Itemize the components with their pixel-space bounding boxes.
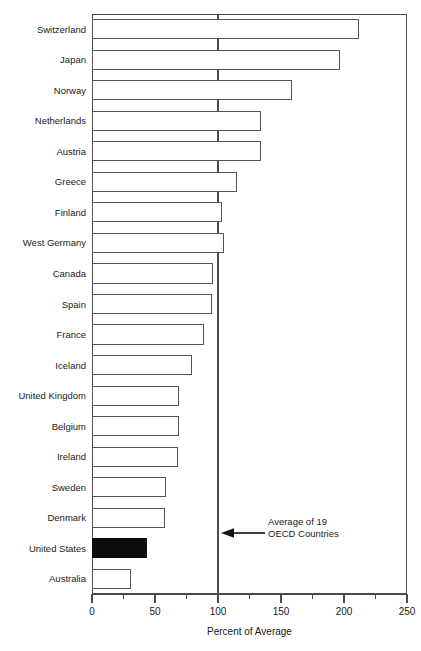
bar bbox=[92, 263, 213, 283]
annotation-arrow-icon bbox=[221, 528, 265, 538]
x-tick-major bbox=[217, 594, 218, 603]
x-tick-major bbox=[406, 594, 407, 603]
bar bbox=[92, 141, 261, 161]
category-label: United States bbox=[0, 543, 86, 554]
category-label: Austria bbox=[0, 146, 86, 157]
bar bbox=[92, 111, 261, 131]
bar bbox=[92, 233, 224, 253]
bar-chart: SwitzerlandJapanNorwayNetherlandsAustria… bbox=[0, 0, 421, 651]
category-label: Ireland bbox=[0, 451, 86, 462]
bar bbox=[92, 202, 222, 222]
bar bbox=[92, 508, 165, 528]
category-label: Japan bbox=[0, 54, 86, 65]
x-tick-minor bbox=[249, 594, 250, 599]
category-label: Spain bbox=[0, 299, 86, 310]
bar bbox=[92, 416, 179, 436]
category-label: Sweden bbox=[0, 482, 86, 493]
bar bbox=[92, 569, 131, 589]
average-annotation: Average of 19 OECD Countries bbox=[268, 516, 339, 539]
x-tick-label: 250 bbox=[399, 606, 416, 618]
bar bbox=[92, 50, 340, 70]
annotation-line-1: Average of 19 bbox=[268, 516, 339, 528]
x-tick-label: 0 bbox=[89, 606, 95, 618]
bar bbox=[92, 19, 359, 39]
category-label: Switzerland bbox=[0, 24, 86, 35]
category-label: Norway bbox=[0, 85, 86, 96]
x-tick-label: 100 bbox=[210, 606, 227, 618]
bar bbox=[92, 538, 147, 558]
bar bbox=[92, 294, 212, 314]
bar bbox=[92, 324, 204, 344]
bar bbox=[92, 386, 179, 406]
x-tick-major bbox=[154, 594, 155, 603]
x-tick-minor bbox=[312, 594, 313, 599]
category-label: United Kingdom bbox=[0, 390, 86, 401]
x-tick-major bbox=[343, 594, 344, 603]
x-axis-title: Percent of Average bbox=[92, 626, 407, 638]
category-label: Iceland bbox=[0, 360, 86, 371]
bars-layer bbox=[92, 14, 407, 594]
category-label: Canada bbox=[0, 268, 86, 279]
category-label: West Germany bbox=[0, 237, 86, 248]
bar bbox=[92, 172, 237, 192]
bar bbox=[92, 80, 292, 100]
x-tick-label: 200 bbox=[336, 606, 353, 618]
x-tick-label: 50 bbox=[149, 606, 160, 618]
x-tick-major bbox=[91, 594, 92, 603]
x-tick-minor bbox=[375, 594, 376, 599]
x-tick-label: 150 bbox=[273, 606, 290, 618]
category-axis-labels: SwitzerlandJapanNorwayNetherlandsAustria… bbox=[0, 14, 86, 594]
category-label: Finland bbox=[0, 207, 86, 218]
bar bbox=[92, 355, 192, 375]
bar bbox=[92, 477, 166, 497]
x-tick-minor bbox=[123, 594, 124, 599]
annotation-line-2: OECD Countries bbox=[268, 528, 339, 540]
x-tick-major bbox=[280, 594, 281, 603]
category-label: Greece bbox=[0, 176, 86, 187]
category-label: Australia bbox=[0, 573, 86, 584]
bar bbox=[92, 447, 178, 467]
x-tick-minor bbox=[186, 594, 187, 599]
category-label: Netherlands bbox=[0, 115, 86, 126]
category-label: France bbox=[0, 329, 86, 340]
category-label: Denmark bbox=[0, 512, 86, 523]
category-label: Belgium bbox=[0, 421, 86, 432]
